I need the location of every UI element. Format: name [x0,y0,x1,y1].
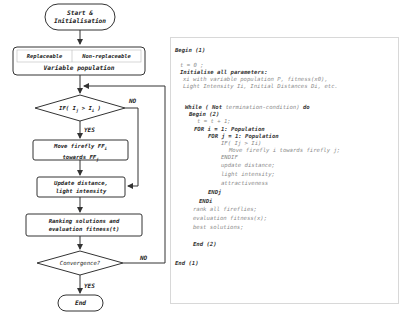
code-line: Begin (2) [189,111,219,118]
end-label: End [58,299,103,307]
code-line: update distance; [221,162,275,169]
code-line: t = 0 ; [180,62,204,69]
decision1-yes-label: YES [84,126,95,133]
ranking-label: Ranking solutions and evaluation fitness… [26,217,142,233]
code-line: Initialise all parameters: [180,69,268,76]
code-line: rank all fireflies; [193,206,257,213]
code-line-while: While ( Not termination-condition) do [185,104,310,111]
code-line: FOR i = 1: Population [194,126,265,133]
decision1-no-label: NO [129,97,136,104]
variable-population-label: Variable population [13,64,145,72]
code-line: IF( Ij > Ii) [221,140,261,147]
move-firefly-label: Move firefly FFi towards FFj [33,142,128,164]
code-line: Begin (1) [175,47,205,54]
decision1-label: IF( Ij > Ii ) [35,104,125,115]
pseudocode-panel: Begin (1) t = 0 ; Initialise all paramet… [170,37,399,304]
code-line: ENDi [199,198,212,205]
convergence-label: Convergence? [37,259,123,267]
code-line: Move firefly i towards firefly j; [229,147,340,154]
replaceable-label: Replaceable [17,52,72,60]
non-replaceable-label: Non-replaceable [72,52,141,60]
decision2-no-label: NO [140,254,147,261]
code-line: attractiveness [221,180,268,187]
code-line: Light Intensity Ii, Initial Distances Di… [183,83,338,90]
start-label: Start & Initialisation [45,9,115,25]
code-line: xi with variable population P, fitness(x… [183,76,328,83]
code-line: ENDIF [221,154,238,161]
decision2-yes-label: YES [84,282,95,289]
code-line: End (2) [193,241,217,248]
code-line: FOR j = 1: Population [208,133,279,140]
code-line: End (1) [175,260,199,267]
code-line: ENDj [208,189,221,196]
code-line: light intensity; [221,171,275,178]
code-line: t = t + 1; [197,118,231,125]
update-label: Update distance, light intensity [37,179,125,195]
code-line: best solutions; [193,224,244,231]
code-line: evaluation fitness(x); [193,215,267,222]
